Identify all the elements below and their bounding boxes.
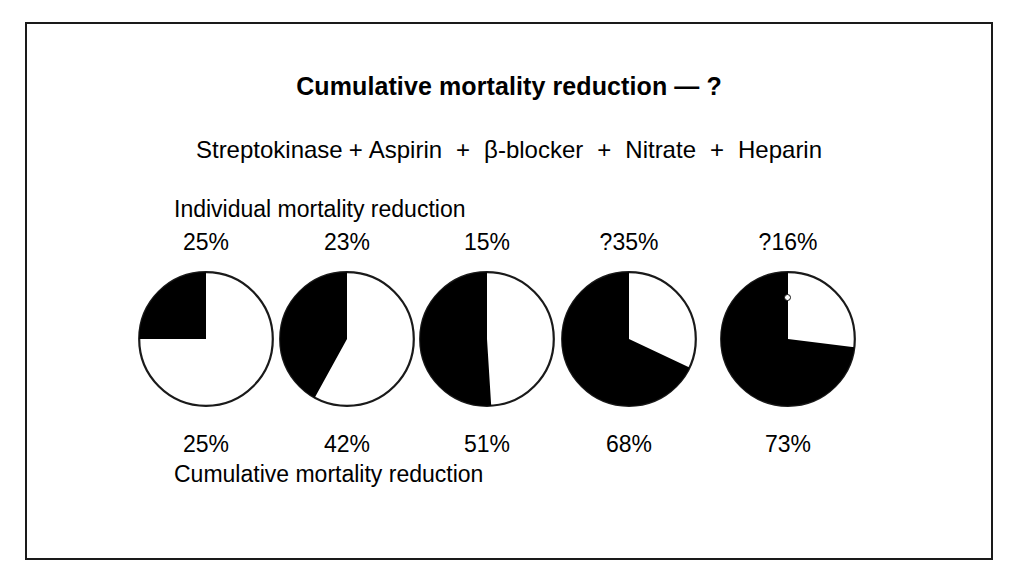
individual-percent-2: 23% [324, 229, 370, 256]
individual-percent-5: ?16% [759, 229, 818, 256]
plus-icon-3: + [583, 136, 625, 163]
pie-chart-2 [279, 271, 415, 407]
pie-chart-5 [720, 271, 856, 407]
pie-chart-row [27, 24, 991, 558]
cumulative-percent-3: 51% [464, 431, 510, 458]
pie-graphic-1 [138, 271, 274, 407]
drug-label-nitrate: Nitrate [625, 136, 696, 163]
individual-series-label: Individual mortality reduction [174, 196, 465, 223]
page-title: Cumulative mortality reduction — ? [27, 72, 991, 101]
individual-percent-3: 15% [464, 229, 510, 256]
plus-icon-4: + [696, 136, 738, 163]
pie-chart-1 [138, 271, 274, 407]
plus-icon-2: + [442, 136, 484, 163]
individual-percent-row: 25%23%15%?35%?16% [27, 229, 991, 259]
cumulative-percent-5: 73% [765, 431, 811, 458]
individual-percent-4: ?35% [600, 229, 659, 256]
cumulative-series-label: Cumulative mortality reduction [174, 461, 483, 488]
pie-artifact-speck [784, 294, 791, 301]
drug-label-heparin: Heparin [738, 136, 822, 163]
pie-filled-sector-3 [420, 272, 491, 406]
pie-filled-sector-1 [139, 272, 206, 339]
regimen-row: Streptokinase+Aspirin+β-blocker+Nitrate+… [27, 136, 991, 164]
drug-label-aspirin: Aspirin [369, 136, 442, 163]
pie-graphic-5 [720, 271, 856, 407]
cumulative-percent-row: 25%42%51%68%73% [27, 431, 991, 461]
drug-label-beta-blocker: β-blocker [484, 136, 583, 163]
individual-percent-1: 25% [183, 229, 229, 256]
pie-graphic-3 [419, 271, 555, 407]
cumulative-percent-4: 68% [606, 431, 652, 458]
pie-chart-4 [561, 271, 697, 407]
plus-icon-1: + [343, 136, 369, 163]
drug-label-streptokinase: Streptokinase [196, 136, 343, 163]
pie-chart-3 [419, 271, 555, 407]
pie-graphic-4 [561, 271, 697, 407]
figure-border: Cumulative mortality reduction — ? Strep… [25, 22, 993, 560]
cumulative-percent-1: 25% [183, 431, 229, 458]
cumulative-percent-2: 42% [324, 431, 370, 458]
pie-graphic-2 [279, 271, 415, 407]
